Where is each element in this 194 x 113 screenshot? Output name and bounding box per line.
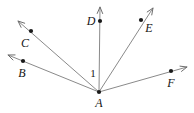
point-label-e: E [145, 22, 152, 34]
point-label-c: C [21, 37, 29, 49]
point-dot-f [169, 69, 173, 73]
ray-ae-arrowhead [147, 8, 153, 15]
point-dot-b [21, 59, 25, 63]
point-dot-a [97, 90, 101, 94]
geometry-diagram: BCDEFA1 [0, 0, 194, 113]
point-label-b: B [18, 67, 25, 79]
point-dot-e [139, 18, 143, 22]
point-dot-d [98, 19, 102, 23]
point-label-d: D [87, 15, 96, 27]
point-label-f: F [167, 77, 174, 89]
point-dot-c [29, 29, 33, 33]
angle-label-1: 1 [90, 68, 96, 79]
rays-group [8, 7, 187, 92]
point-label-a: A [95, 97, 102, 109]
